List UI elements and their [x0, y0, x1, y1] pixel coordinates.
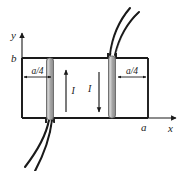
loop-top-right-segment	[116, 53, 148, 58]
loop-top-left-segment	[22, 53, 108, 58]
lead-bottom-outer-wire	[25, 120, 49, 167]
lead-top-outer-highlight	[111, 10, 131, 54]
current-left: I	[66, 70, 76, 112]
left-bar	[47, 58, 54, 120]
right-bar-body	[109, 56, 116, 118]
current-right-label: I	[87, 83, 92, 94]
y-tick-label-b: b	[11, 52, 17, 64]
x-tick-label-a: a	[141, 121, 147, 133]
y-axis-label: y	[10, 29, 16, 41]
dimension-left-label: a/4	[31, 66, 43, 76]
current-right: I	[87, 72, 99, 112]
right-bar	[109, 56, 116, 118]
lead-bottom-inner-wire	[35, 120, 52, 171]
loop-outline	[22, 53, 148, 123]
loop-bottom-left-segment	[22, 118, 46, 123]
dimension-right-label: a/4	[126, 66, 138, 76]
lead-wires-bottom	[25, 120, 53, 171]
current-left-label: I	[71, 85, 76, 96]
left-bar-body	[47, 58, 54, 120]
loop-bottom-right-segment	[54, 118, 148, 123]
lead-wires-top	[110, 8, 140, 55]
physics-diagram-figure: a/4 a/4 I I y x b a	[0, 0, 188, 171]
x-axis-label: x	[167, 122, 173, 134]
lead-top-inner-wire	[115, 12, 139, 55]
dimension-right: a/4	[118, 66, 146, 78]
diagram-canvas: a/4 a/4 I I y x b a	[0, 0, 188, 171]
lead-top-inner-highlight	[116, 13, 140, 53]
